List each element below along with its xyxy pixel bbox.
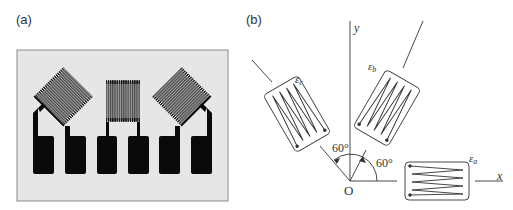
angle-label-lower: 60° [376,156,393,170]
epsilon-a-label: εa [469,152,477,166]
epsilon-b-label: εb [368,60,376,74]
gauge-epsilon-a [405,162,469,200]
figure-canvas: y x O εa εb εc 60° 60° [0,0,513,210]
pad-1 [33,136,54,174]
gauge-center [106,80,140,122]
angle-label-upper: 60° [332,141,349,155]
epsilon-c-label: εc [295,73,303,87]
gauge-epsilon-b [353,69,421,146]
origin-label: O [344,183,353,198]
pad-2 [65,136,86,174]
y-axis-label: y [353,21,360,35]
epsilon-c-axis-ext [252,60,272,82]
angle-arc-60-a [363,157,377,181]
pad-3 [97,136,117,174]
panel-b-labels: y x O εa εb εc 60° 60° [295,21,503,198]
gauge-epsilon-c [263,75,331,152]
panel-b-diagram [252,21,503,200]
pad-6 [191,136,212,174]
substrate [17,50,228,201]
epsilon-b-axis-ext [403,21,423,68]
pad-4 [128,136,149,174]
x-axis-label: x [496,169,503,183]
pad-5 [159,136,180,174]
panel-a-photo [17,50,228,201]
